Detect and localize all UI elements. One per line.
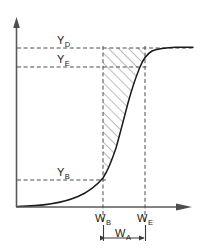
label-ye: YE <box>57 53 70 68</box>
label-yd: YD <box>57 34 71 49</box>
y-axis <box>13 17 20 207</box>
label-we: WE <box>137 212 153 227</box>
label-yb: YB <box>57 166 70 181</box>
label-wb: WB <box>95 212 111 227</box>
y-axis-arrowhead <box>13 17 20 28</box>
label-wa: WA <box>115 227 131 242</box>
x-axis-arrowhead <box>176 203 192 210</box>
diagram-canvas: YD YE YB WB WE WA <box>0 0 206 250</box>
